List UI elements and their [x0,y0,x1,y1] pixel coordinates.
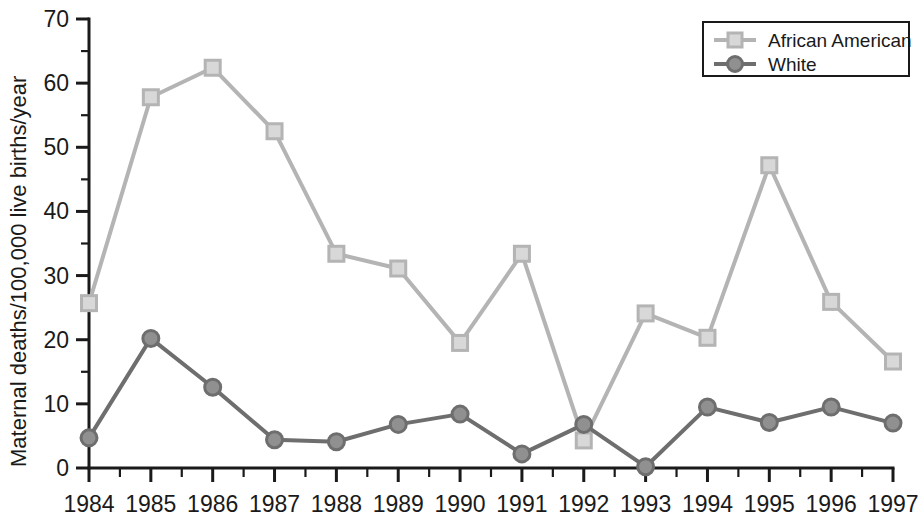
chart-legend: African AmericanWhite [703,22,912,76]
x-axis-tick-labels: 1984198519861987198819891990199119921993… [63,491,918,517]
data-point [823,399,839,415]
legend-label: White [768,54,817,75]
data-point [82,296,97,311]
data-point [638,459,654,475]
x-tick-label-1990: 1990 [434,491,485,517]
data-point [886,354,901,369]
data-point [453,335,468,350]
series-line [89,338,893,466]
data-point [267,432,283,448]
data-point [762,158,777,173]
y-tick-label-10: 10 [43,391,69,417]
line-chart: Maternal deaths/100,000 live births/year… [0,0,919,519]
x-tick-label-1997: 1997 [867,491,918,517]
y-tick-label-30: 30 [43,263,69,289]
y-tick-label-70: 70 [43,6,69,32]
y-axis-tick-labels: 010203040506070 [43,6,69,481]
x-tick-label-1993: 1993 [620,491,671,517]
legend-label: African American [768,30,912,51]
x-tick-label-1992: 1992 [558,491,609,517]
data-point [391,261,406,276]
data-point [205,379,221,395]
data-point [514,246,529,261]
data-point [205,60,220,75]
x-tick-label-1988: 1988 [311,491,362,517]
y-tick-label-20: 20 [43,327,69,353]
x-tick-label-1987: 1987 [249,491,300,517]
y-tick-label-0: 0 [56,455,69,481]
data-point [761,414,777,430]
data-point [514,446,530,462]
x-tick-label-1995: 1995 [744,491,795,517]
data-point [390,416,406,432]
x-tick-label-1994: 1994 [682,491,733,517]
data-point [267,124,282,139]
data-series-layer [81,60,901,474]
data-point [143,90,158,105]
data-point [576,416,592,432]
x-tick-label-1985: 1985 [125,491,176,517]
x-tick-label-1991: 1991 [496,491,547,517]
series-white [81,330,901,474]
data-point [699,399,715,415]
data-point [576,433,591,448]
y-tick-label-40: 40 [43,198,69,224]
legend-swatch-marker [728,33,742,47]
legend-swatch-marker [728,57,743,72]
x-tick-label-1996: 1996 [806,491,857,517]
data-point [638,306,653,321]
data-point [143,330,159,346]
data-point [452,406,468,422]
x-tick-label-1989: 1989 [373,491,424,517]
data-point [329,246,344,261]
data-point [700,330,715,345]
y-axis-title: Maternal deaths/100,000 live births/year [6,76,31,467]
y-tick-label-60: 60 [43,70,69,96]
data-point [885,415,901,431]
x-tick-label-1984: 1984 [63,491,114,517]
data-point [81,430,97,446]
chart-figure: Maternal deaths/100,000 live births/year… [0,0,919,519]
y-tick-label-50: 50 [43,134,69,160]
data-point [824,294,839,309]
x-tick-label-1986: 1986 [187,491,238,517]
data-point [328,434,344,450]
